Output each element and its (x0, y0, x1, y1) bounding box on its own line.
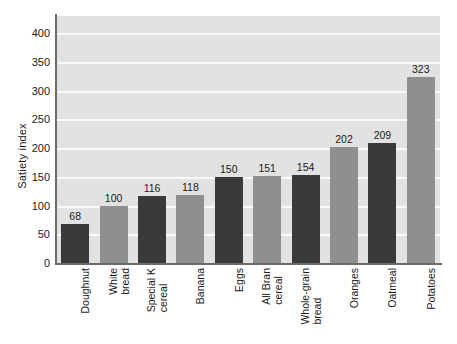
bar-slot[interactable]: 100 (100, 16, 128, 263)
plot-area: 68100116118150151154202209323 (56, 16, 440, 263)
bar-value-label: 323 (412, 63, 430, 75)
bar-value-label: 202 (335, 133, 353, 145)
bar[interactable] (100, 206, 128, 263)
bar-slot[interactable]: 116 (138, 16, 166, 263)
category-label-line: Doughnut (79, 268, 91, 314)
category-label-line: cereal (273, 268, 285, 305)
y-tick-label-250: 250 (4, 113, 50, 125)
bar[interactable] (292, 175, 320, 263)
y-tick-label-400: 400 (4, 27, 50, 39)
category-label-line: Oranges (348, 268, 360, 308)
bar-slot[interactable]: 68 (61, 16, 89, 263)
bar-slot[interactable]: 150 (215, 16, 243, 263)
bar-value-label: 118 (182, 181, 199, 193)
bar-value-label: 116 (144, 182, 161, 194)
category-label-line: bread (311, 268, 323, 325)
bar-value-label: 100 (105, 192, 123, 204)
bar-value-label: 68 (69, 210, 81, 222)
bar-value-label: 150 (220, 163, 238, 175)
bar[interactable] (253, 176, 281, 263)
y-axis-line (55, 14, 57, 265)
bar-value-label: 154 (297, 161, 315, 173)
category-label-line: bread (119, 268, 131, 295)
x-axis-line (55, 263, 442, 265)
bar-slot[interactable]: 323 (407, 16, 435, 263)
bar[interactable] (407, 77, 435, 263)
category-label-line: Oatmeal (386, 268, 398, 308)
category-label-line: Special K (146, 268, 158, 312)
bar[interactable] (176, 195, 204, 263)
category-label-line: All Bran (261, 268, 273, 305)
bar-slot[interactable]: 209 (368, 16, 396, 263)
category-label: Potatoes (426, 268, 438, 309)
category-label: Whole-grainbread (300, 268, 323, 325)
bar-slot[interactable]: 151 (253, 16, 281, 263)
bar[interactable] (61, 224, 89, 263)
y-tick-label-0: 0 (4, 257, 50, 269)
category-label-line: Whole-grain (300, 268, 312, 325)
category-label-line: cereal (158, 268, 170, 312)
category-label-line: White (108, 268, 120, 295)
y-tick-label-200: 200 (4, 142, 50, 154)
y-tick-label-300: 300 (4, 85, 50, 97)
bar-slot[interactable]: 118 (176, 16, 204, 263)
y-tick-label-350: 350 (4, 56, 50, 68)
category-label: Whitebread (108, 268, 131, 295)
bar-slot[interactable]: 154 (292, 16, 320, 263)
y-axis-tick-labels: 050100150200250300350400 (0, 0, 50, 344)
bar[interactable] (215, 177, 243, 263)
bar-value-label: 209 (374, 129, 392, 141)
y-tick-label-50: 50 (4, 228, 50, 240)
bar-slot[interactable]: 202 (330, 16, 358, 263)
category-label-line: Potatoes (425, 268, 437, 309)
satiety-index-bar-chart: Satiety index 050100150200250300350400 6… (0, 0, 457, 344)
bar[interactable] (368, 143, 396, 263)
category-label-line: Eggs (233, 268, 245, 292)
category-label: Oatmeal (387, 268, 399, 308)
category-label-line: Banana (194, 268, 206, 304)
category-label: Doughnut (80, 268, 92, 314)
category-label: Eggs (234, 268, 246, 292)
bar[interactable] (330, 147, 358, 263)
category-label: Oranges (349, 268, 361, 308)
y-tick-label-150: 150 (4, 171, 50, 183)
category-label: Banana (195, 268, 207, 304)
category-label: Special Kcereal (146, 268, 169, 312)
bar[interactable] (138, 196, 166, 263)
y-tick-label-100: 100 (4, 200, 50, 212)
bar-value-label: 151 (258, 162, 276, 174)
category-label: All Brancereal (261, 268, 284, 305)
